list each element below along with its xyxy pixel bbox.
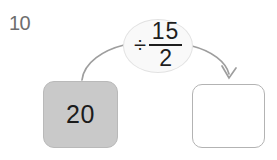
fraction-denominator: 2 [159,47,172,70]
input-box: 20 [43,81,118,148]
fraction-numerator: 15 [152,20,180,43]
division-operator-icon: ÷ [134,34,146,56]
output-box[interactable] [192,84,265,148]
arrow-input-to-operation [82,45,124,80]
operation-bubble: ÷ 15 2 [123,19,193,73]
operation-expression: ÷ 15 2 [134,20,182,70]
input-box-value: 20 [66,102,95,127]
fraction: 15 2 [149,20,182,70]
worksheet-problem: 10 20 ÷ 15 2 [0,0,277,160]
